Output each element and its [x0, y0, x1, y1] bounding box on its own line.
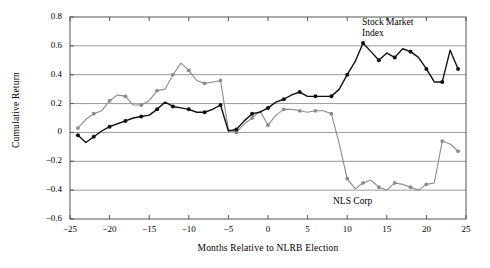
- x-tick-label: 20: [406, 224, 446, 234]
- data-point: [329, 94, 333, 98]
- x-tick-label: −20: [90, 224, 130, 234]
- data-point: [456, 67, 460, 71]
- x-tick-label: −10: [169, 224, 209, 234]
- data-point: [377, 185, 381, 189]
- x-tick-label: −25: [50, 224, 90, 234]
- data-point: [440, 139, 444, 143]
- data-point: [218, 103, 222, 107]
- data-point: [266, 106, 270, 110]
- data-point: [108, 125, 112, 129]
- chart-figure: Cumulative Return Months Relative to NLR…: [0, 0, 490, 268]
- data-point: [124, 94, 128, 98]
- data-point: [171, 73, 175, 77]
- data-point: [187, 68, 191, 72]
- annotation-stock-line-1: Stock Market: [362, 17, 413, 28]
- data-point: [409, 185, 413, 189]
- data-point: [361, 181, 365, 185]
- x-tick-label: 25: [446, 224, 486, 234]
- data-point: [76, 133, 80, 137]
- y-tick-label: 0.6: [28, 40, 62, 50]
- x-tick-label: −15: [129, 224, 169, 234]
- data-series: [76, 41, 460, 190]
- data-point: [139, 103, 143, 107]
- data-point: [234, 128, 238, 132]
- data-point: [92, 135, 96, 139]
- plot-frame: [70, 17, 466, 219]
- x-tick-label: 0: [248, 224, 288, 234]
- data-point: [424, 67, 428, 71]
- gridlines: [70, 46, 466, 190]
- data-point: [298, 90, 302, 94]
- data-point: [76, 126, 80, 130]
- x-tick-label: −5: [208, 224, 248, 234]
- data-point: [203, 110, 207, 114]
- data-point: [361, 41, 365, 45]
- y-axis-label: Cumulative Return: [11, 60, 21, 160]
- series-line: [78, 43, 458, 143]
- data-point: [282, 97, 286, 101]
- data-point: [108, 99, 112, 103]
- data-point: [345, 73, 349, 77]
- data-point: [345, 177, 349, 181]
- data-point: [219, 79, 223, 83]
- data-point: [282, 107, 286, 111]
- y-tick-label: 0.8: [28, 11, 62, 21]
- data-point: [314, 109, 318, 113]
- x-tick-label: 15: [367, 224, 407, 234]
- data-point: [92, 112, 96, 116]
- data-point: [393, 181, 397, 185]
- data-point: [440, 80, 444, 84]
- data-point: [155, 107, 159, 111]
- data-point: [314, 94, 318, 98]
- y-tick-label: 0.4: [28, 69, 62, 79]
- tick-marks: [70, 17, 466, 219]
- data-point: [425, 182, 429, 186]
- y-tick-label: −0.2: [28, 155, 62, 165]
- y-tick-label: 0: [28, 126, 62, 136]
- y-tick-label: −0.6: [28, 213, 62, 223]
- data-point: [250, 116, 254, 120]
- annotation-stock-market-index: Stock Market Index: [362, 17, 413, 39]
- data-point: [155, 89, 159, 93]
- x-axis-label: Months Relative to NLRB Election: [70, 243, 466, 253]
- x-tick-label: 10: [327, 224, 367, 234]
- data-point: [171, 104, 175, 108]
- data-point: [187, 107, 191, 111]
- annotation-nls-corp: NLS Corp: [333, 196, 372, 207]
- data-point: [250, 112, 254, 116]
- data-point: [203, 81, 207, 85]
- data-point: [298, 109, 302, 113]
- data-point: [266, 123, 270, 127]
- data-point: [139, 115, 143, 119]
- data-point: [409, 50, 413, 54]
- data-point: [393, 55, 397, 59]
- annotation-stock-line-2: Index: [362, 28, 413, 39]
- y-tick-label: −0.4: [28, 184, 62, 194]
- data-point: [377, 58, 381, 62]
- x-tick-label: 5: [288, 224, 328, 234]
- data-point: [456, 149, 460, 153]
- data-point: [329, 112, 333, 116]
- y-tick-label: 0.2: [28, 98, 62, 108]
- data-point: [123, 119, 127, 123]
